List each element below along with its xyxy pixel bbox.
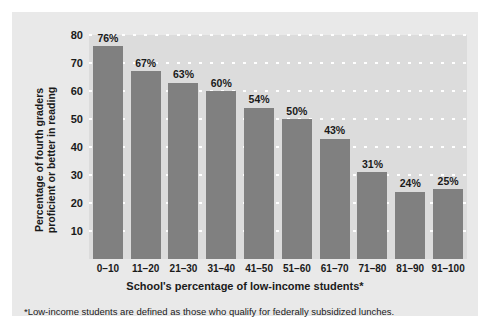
bar-slot: 67% [131,35,161,259]
x-axis-tick-label: 81–90 [392,263,428,274]
bar-slot: 63% [168,35,198,259]
bar-slot: 54% [244,35,274,259]
bar [433,189,463,259]
bar-slot: 25% [433,35,463,259]
bar [206,91,236,259]
footnote: *Low-income students are defined as thos… [24,306,394,317]
bar-slot: 43% [320,35,350,259]
bar-slot: 60% [206,35,236,259]
y-axis-tick-label: 10 [57,226,83,237]
x-axis-tick-labels: 0–1011–2021–3031–4041–5051–6061–7071–808… [89,263,467,277]
x-axis-tick-label: 0–10 [90,263,126,274]
bar [93,46,123,259]
x-axis-tick-label: 91–100 [430,263,466,274]
x-axis-tick-label: 11–20 [128,263,164,274]
bar-value-label: 63% [173,69,194,80]
y-axis-tick-label: 30 [57,170,83,181]
bar-value-label: 76% [97,33,118,44]
bar-value-label: 43% [324,125,345,136]
x-axis-title: School's percentage of low-income studen… [12,280,478,292]
y-axis-tick-label: 70 [57,58,83,69]
y-axis-tick-label: 40 [57,142,83,153]
bar [282,119,312,259]
y-axis-tick-label: 60 [57,86,83,97]
bar [395,192,425,259]
bar [320,139,350,259]
bar [168,83,198,259]
x-axis-tick-label: 61–70 [317,263,353,274]
bar-value-label: 54% [249,94,270,105]
bar-value-label: 50% [286,106,307,117]
bar [357,172,387,259]
x-axis-tick-label: 21–30 [165,263,201,274]
x-axis-tick-label: 41–50 [241,263,277,274]
bar-value-label: 60% [211,78,232,89]
bar-value-label: 24% [400,178,421,189]
bar-value-label: 67% [135,58,156,69]
y-axis-tick-label: 80 [57,30,83,41]
y-axis-title-line-1: Percentage of fourth graders [33,88,45,232]
x-axis-tick-label: 51–60 [279,263,315,274]
y-axis-title-line-2: proficient or better in reading [45,87,57,233]
bar-slot: 76% [93,35,123,259]
y-axis-tick-label: 50 [57,114,83,125]
bar-series: 76%67%63%60%54%50%43%31%24%25% [89,35,467,259]
plot-area: 1020304050607080 76%67%63%60%54%50%43%31… [89,35,467,259]
bar-slot: 24% [395,35,425,259]
bar-slot: 50% [282,35,312,259]
x-axis-tick-label: 31–40 [203,263,239,274]
bar [131,71,161,259]
bar-value-label: 25% [438,176,459,187]
chart-figure: Percentage of fourth graders proficient … [12,12,478,316]
y-axis-tick-label: 20 [57,198,83,209]
bar-value-label: 31% [362,159,383,170]
bar [244,108,274,259]
x-axis-tick-label: 71–80 [354,263,390,274]
bar-slot: 31% [357,35,387,259]
